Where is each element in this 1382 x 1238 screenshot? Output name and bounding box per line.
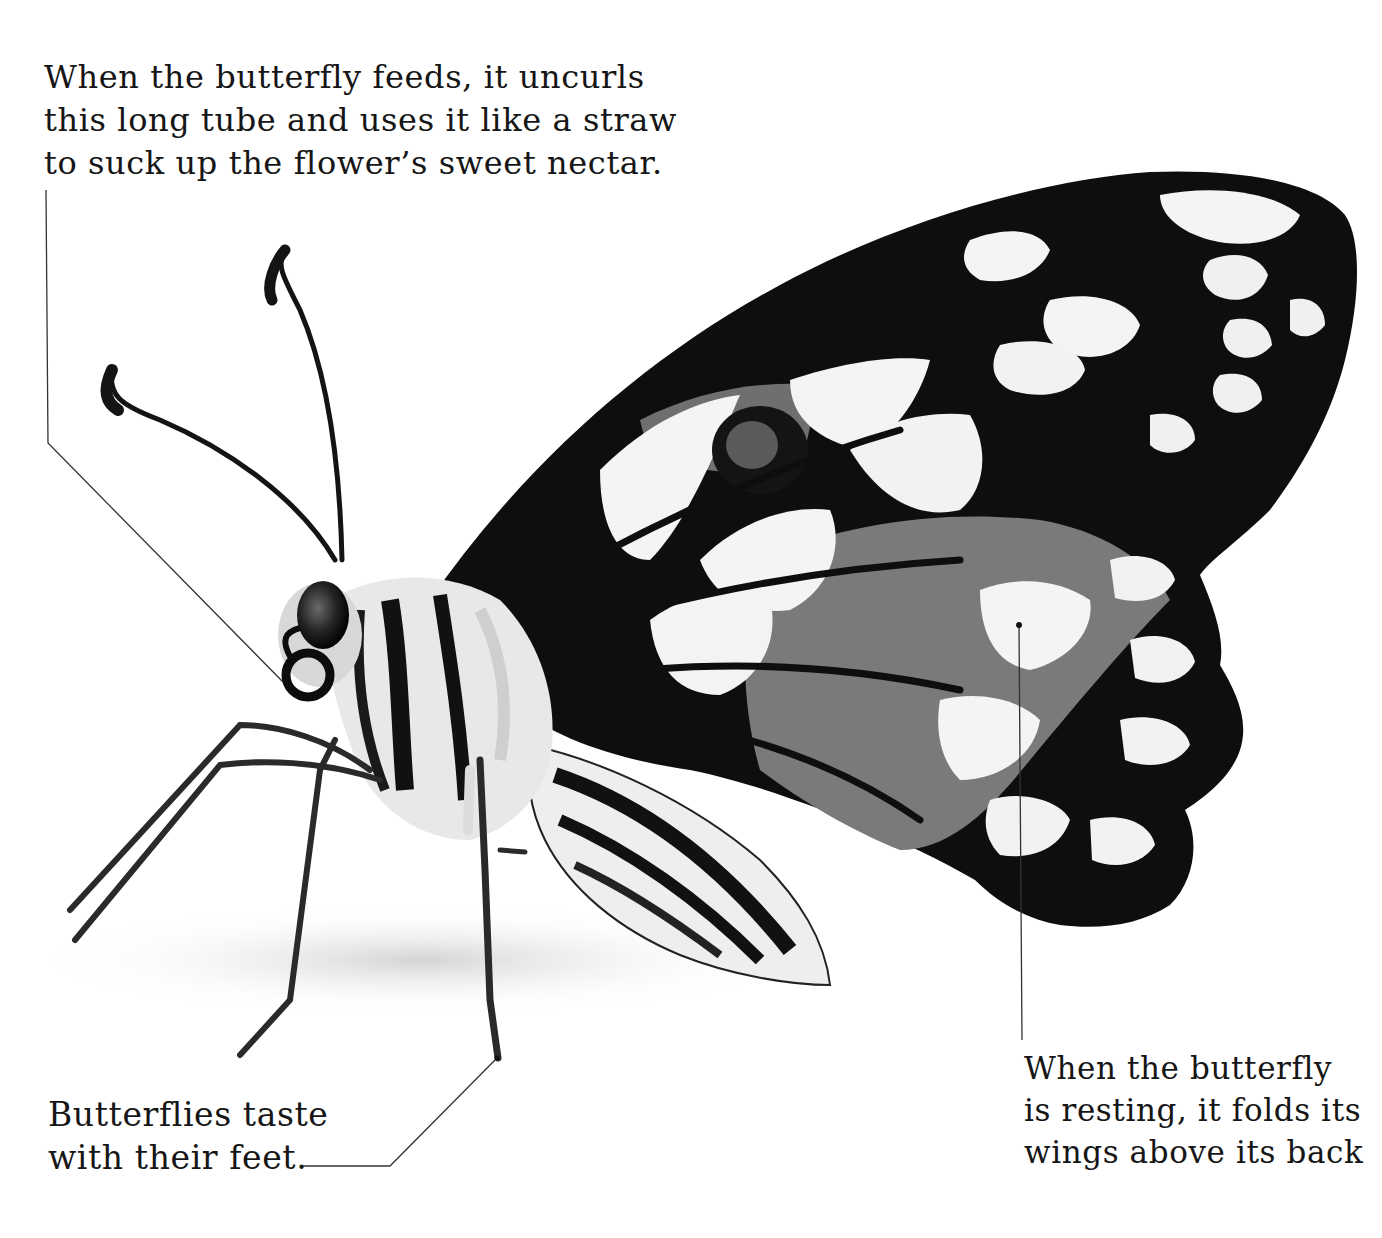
- leader-line-proboscis: [46, 190, 283, 682]
- antennae: [106, 250, 342, 560]
- caption-line: with their feet.: [48, 1136, 328, 1179]
- caption-line: wings above its back: [1024, 1131, 1363, 1173]
- caption-line: to suck up the flower’s sweet nectar.: [44, 142, 677, 185]
- caption-proboscis: When the butterfly feeds, it uncurls thi…: [44, 56, 677, 185]
- page: When the butterfly feeds, it uncurls thi…: [0, 0, 1382, 1238]
- caption-wings: When the butterfly is resting, it folds …: [1024, 1047, 1363, 1173]
- compound-eye: [297, 581, 349, 649]
- caption-feet: Butterflies taste with their feet.: [48, 1093, 328, 1179]
- leader-dot-wing: [1016, 622, 1022, 628]
- caption-line: is resting, it folds its: [1024, 1089, 1363, 1131]
- leader-dot-feet: [495, 1056, 500, 1061]
- caption-line: When the butterfly: [1024, 1047, 1363, 1089]
- leader-line-feet: [302, 1058, 497, 1166]
- caption-line: Butterflies taste: [48, 1093, 328, 1136]
- caption-line: this long tube and uses it like a straw: [44, 99, 677, 142]
- caption-line: When the butterfly feeds, it uncurls: [44, 56, 677, 99]
